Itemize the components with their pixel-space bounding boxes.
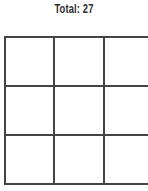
grid-cell-r3c3[interactable] — [105, 136, 148, 185]
grid-cell-r1c1[interactable] — [6, 38, 55, 87]
total-label: Total: 27 — [16, 2, 131, 16]
grid-cell-r3c1[interactable] — [6, 136, 55, 185]
game-grid — [4, 36, 148, 185]
grid-cell-r1c3[interactable] — [105, 38, 148, 87]
grid-cell-r2c2[interactable] — [55, 87, 105, 136]
grid-cell-r1c2[interactable] — [55, 38, 105, 87]
grid-cell-r3c2[interactable] — [55, 136, 105, 185]
grid-cell-r2c1[interactable] — [6, 87, 55, 136]
grid-cell-r2c3[interactable] — [105, 87, 148, 136]
